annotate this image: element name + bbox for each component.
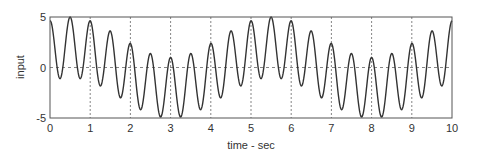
x-tick-label: 4 <box>208 122 214 134</box>
y-axis-label: input <box>14 55 26 79</box>
x-tick-label: 1 <box>87 122 93 134</box>
y-axis-ticks: -505 <box>36 11 46 124</box>
y-tick-label: -5 <box>36 112 46 124</box>
x-tick-label: 3 <box>168 122 174 134</box>
y-tick-label: 0 <box>40 62 46 74</box>
x-tick-label: 5 <box>248 122 254 134</box>
x-axis-label: time - sec <box>227 139 275 151</box>
x-tick-label: 8 <box>369 122 375 134</box>
x-tick-label: 6 <box>288 122 294 134</box>
x-tick-label: 2 <box>127 122 133 134</box>
line-chart: 012345678910 -505 time - sec input <box>0 0 478 154</box>
x-tick-label: 7 <box>328 122 334 134</box>
x-axis-ticks: 012345678910 <box>47 122 458 134</box>
x-tick-label: 9 <box>409 122 415 134</box>
y-tick-label: 5 <box>40 11 46 23</box>
x-tick-label: 10 <box>446 122 458 134</box>
x-tick-label: 0 <box>47 122 53 134</box>
